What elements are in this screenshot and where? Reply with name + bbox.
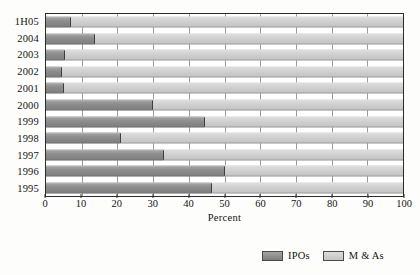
bar-segment-ipos <box>46 133 121 144</box>
bar-row <box>46 163 403 180</box>
y-axis-label: 1H05 <box>0 13 41 30</box>
stacked-bar <box>46 182 403 193</box>
bar-segment-mas <box>212 182 403 193</box>
bar-row <box>46 130 403 147</box>
y-axis-category-labels: 1H05200420032002200120001999199819971996… <box>0 13 41 197</box>
bar-row <box>46 146 403 163</box>
x-tick-label: 20 <box>112 198 123 209</box>
stacked-bar <box>46 116 403 127</box>
legend-swatch <box>323 251 344 261</box>
y-axis-label: 2002 <box>0 63 41 80</box>
bar-segment-ipos <box>46 33 95 44</box>
plot-area <box>45 13 404 197</box>
bar-row <box>46 97 403 114</box>
x-tick-label: 70 <box>291 198 302 209</box>
y-axis-label: 1995 <box>0 180 41 197</box>
bar-segment-mas <box>164 149 403 160</box>
bar-segment-ipos <box>46 166 225 177</box>
x-tick-label: 50 <box>219 198 230 209</box>
bar-row <box>46 80 403 97</box>
bar-segment-mas <box>64 83 403 94</box>
stacked-bar <box>46 66 403 77</box>
x-tick-label: 30 <box>147 198 158 209</box>
legend-label: IPOs <box>288 250 310 261</box>
bar-segment-mas <box>205 116 403 127</box>
x-axis-title: Percent <box>45 212 404 223</box>
stacked-bar <box>46 149 403 160</box>
bar-segment-mas <box>153 100 403 111</box>
bar-segment-ipos <box>46 66 62 77</box>
x-tick-label: 0 <box>42 198 47 209</box>
x-tick-label: 40 <box>183 198 194 209</box>
legend-label: M & As <box>349 250 384 261</box>
legend-swatch <box>262 251 283 261</box>
chart-legend: IPOsM & As <box>262 250 384 261</box>
y-axis-label: 1996 <box>0 164 41 181</box>
x-tick-label: 60 <box>255 198 266 209</box>
y-axis-label: 2001 <box>0 80 41 97</box>
y-axis-label: 2000 <box>0 97 41 114</box>
bar-segment-ipos <box>46 149 164 160</box>
bar-segment-mas <box>65 50 403 61</box>
x-tick-label: 10 <box>76 198 87 209</box>
stacked-bar <box>46 17 403 28</box>
y-axis-label: 1997 <box>0 147 41 164</box>
y-axis-label: 2004 <box>0 30 41 47</box>
stacked-bar <box>46 50 403 61</box>
bar-segment-mas <box>121 133 403 144</box>
stacked-bar <box>46 166 403 177</box>
bar-segment-ipos <box>46 50 65 61</box>
bar-segment-mas <box>95 33 403 44</box>
stacked-bar <box>46 133 403 144</box>
bar-row <box>46 47 403 64</box>
bar-segment-ipos <box>46 116 205 127</box>
bar-segment-mas <box>71 17 403 28</box>
y-axis-label: 1998 <box>0 130 41 147</box>
x-tick-label: 90 <box>363 198 374 209</box>
bar-segment-ipos <box>46 83 64 94</box>
bar-segment-ipos <box>46 100 153 111</box>
stacked-bar <box>46 83 403 94</box>
y-axis-label: 2003 <box>0 46 41 63</box>
legend-item: IPOs <box>262 250 310 261</box>
x-axis-ticks: 0102030405060708090100 <box>45 198 404 212</box>
stacked-bar-chart: 1H05200420032002200120001999199819971996… <box>0 0 420 275</box>
y-axis-label: 1999 <box>0 113 41 130</box>
bar-row <box>46 113 403 130</box>
bar-segment-ipos <box>46 182 212 193</box>
x-tick-label: 80 <box>327 198 338 209</box>
bar-segment-ipos <box>46 17 71 28</box>
x-tick-label: 100 <box>396 198 412 209</box>
stacked-bar <box>46 100 403 111</box>
stacked-bar <box>46 33 403 44</box>
bar-rows <box>46 14 403 196</box>
bar-row <box>46 31 403 48</box>
bar-row <box>46 14 403 31</box>
legend-item: M & As <box>323 250 384 261</box>
bar-row <box>46 64 403 81</box>
bar-segment-mas <box>225 166 404 177</box>
bar-segment-mas <box>62 66 403 77</box>
